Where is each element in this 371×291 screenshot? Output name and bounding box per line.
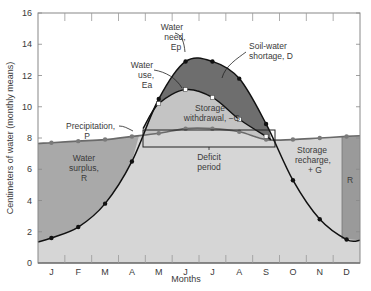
- svg-text:Water: Water: [161, 22, 184, 32]
- annotation-water-need: Water need, Ep: [161, 22, 186, 52]
- svg-text:P: P: [84, 131, 90, 141]
- x-tick-label: A: [236, 267, 242, 277]
- svg-text:use,: use,: [138, 70, 154, 80]
- water-need-point: [157, 97, 161, 101]
- y-tick-label: 0: [27, 258, 32, 268]
- x-tick-label: O: [289, 267, 296, 277]
- y-tick-label: 12: [22, 71, 32, 81]
- svg-text:surplus,: surplus,: [69, 163, 99, 173]
- svg-text:Storage: Storage: [195, 103, 225, 113]
- y-tick-label: 2: [27, 227, 32, 237]
- svg-text:Precipitation,: Precipitation,: [66, 121, 115, 131]
- water-need-point: [237, 76, 241, 80]
- water-need-point: [264, 122, 268, 126]
- y-tick-label: 8: [27, 133, 32, 143]
- water-need-point: [183, 59, 187, 63]
- y-tick-label: 10: [22, 102, 32, 112]
- x-tick-label: S: [263, 267, 269, 277]
- svg-text:R: R: [81, 173, 87, 183]
- svg-text:+ G: + G: [308, 165, 322, 175]
- precipitation-point: [130, 134, 134, 138]
- precipitation-point: [344, 134, 348, 138]
- x-tick-label: A: [129, 267, 135, 277]
- water-use-point: [157, 102, 161, 106]
- precipitation-point: [103, 137, 107, 141]
- x-tick-label: M: [101, 267, 109, 277]
- x-tick-label: J: [49, 267, 54, 277]
- water-need-point: [344, 237, 348, 241]
- svg-text:Deficit: Deficit: [197, 152, 221, 162]
- svg-text:Ep: Ep: [171, 42, 182, 52]
- y-tick-label: 16: [22, 8, 32, 18]
- y-axis-label: Centimeters of water (monthly means): [5, 62, 15, 215]
- svg-text:period: period: [197, 162, 221, 172]
- water-need-point: [130, 159, 134, 163]
- svg-text:Ea: Ea: [142, 80, 153, 90]
- y-tick-label: 4: [27, 196, 32, 206]
- water-budget-chart: 0246810121416JFMAMJJASOND Water need, Ep…: [0, 0, 371, 291]
- precipitation-point: [49, 140, 53, 144]
- water-use-point: [184, 88, 188, 92]
- svg-text:Storage: Storage: [297, 145, 327, 155]
- water-need-point: [318, 217, 322, 221]
- x-tick-label: J: [210, 267, 215, 277]
- y-tick-label: 14: [22, 39, 32, 49]
- svg-text:withdrawal, −G: withdrawal, −G: [183, 113, 240, 123]
- svg-text:shortage, D: shortage, D: [249, 51, 293, 61]
- water-need-point: [49, 236, 53, 240]
- water-use-point: [210, 95, 214, 99]
- precipitation-point: [76, 139, 80, 143]
- water-use-point: [264, 134, 268, 138]
- precipitation-point: [157, 131, 161, 135]
- water-need-point: [76, 225, 80, 229]
- water-need-point: [210, 59, 214, 63]
- water-need-point: [291, 178, 295, 182]
- x-tick-label: D: [343, 267, 350, 277]
- svg-text:Water: Water: [131, 60, 154, 70]
- x-axis-label: Months: [171, 274, 201, 284]
- precipitation-point: [318, 136, 322, 140]
- y-tick-label: 6: [27, 164, 32, 174]
- surplus-december-area: [342, 136, 360, 241]
- svg-text:Water: Water: [73, 153, 96, 163]
- svg-text:Soil-water: Soil-water: [249, 41, 287, 51]
- annotation-r-december: R: [347, 175, 353, 185]
- x-tick-label: F: [76, 267, 82, 277]
- svg-text:recharge,: recharge,: [295, 155, 331, 165]
- precipitation-point: [291, 137, 295, 141]
- x-tick-label: M: [155, 267, 163, 277]
- water-need-point: [103, 201, 107, 205]
- x-tick-label: N: [317, 267, 324, 277]
